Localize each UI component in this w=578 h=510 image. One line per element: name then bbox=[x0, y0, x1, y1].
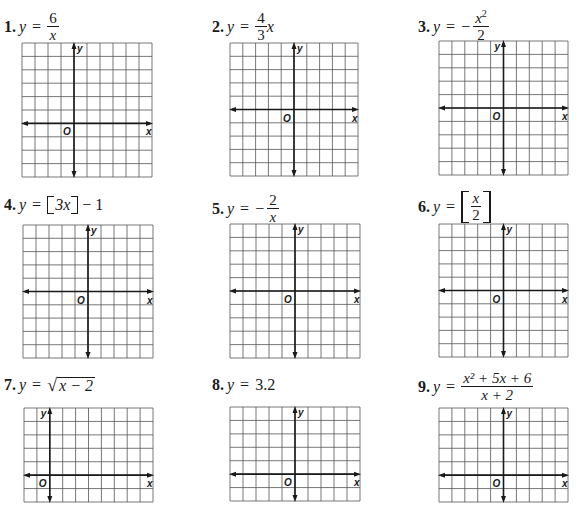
lhs: y bbox=[227, 376, 234, 394]
square-root: √ x − 2 bbox=[47, 376, 95, 394]
lhs: y bbox=[19, 18, 26, 36]
numerator: 4 bbox=[255, 10, 267, 27]
lhs: y bbox=[19, 376, 26, 394]
equals-sign: = bbox=[446, 198, 455, 216]
problem-7-equation: 7. y = √ x − 2 bbox=[4, 376, 95, 394]
radicand: x − 2 bbox=[57, 377, 95, 394]
coordinate-grid-8: xyO bbox=[222, 399, 368, 509]
lhs: y bbox=[227, 200, 234, 218]
y-axis-label: y bbox=[297, 224, 304, 235]
radical-sign-icon: √ bbox=[47, 376, 57, 394]
fraction: x² + 5x + 6 x + 2 bbox=[461, 370, 533, 403]
lhs: y bbox=[433, 198, 440, 216]
problem-number: 9. bbox=[418, 378, 430, 396]
numerator: 2 bbox=[267, 192, 279, 209]
coordinate-grid-5: xyO bbox=[222, 216, 368, 366]
tail: − 1 bbox=[82, 196, 103, 214]
x-axis-label: x bbox=[353, 477, 360, 488]
equals-sign: = bbox=[446, 378, 455, 396]
numerator: 6 bbox=[47, 10, 59, 27]
coordinate-grid-6: xyO bbox=[431, 216, 576, 365]
problem-number: 6. bbox=[418, 198, 430, 216]
origin-label: O bbox=[39, 478, 47, 489]
numerator-base: x bbox=[475, 10, 482, 26]
y-axis-label: y bbox=[76, 43, 83, 54]
y-axis-label: y bbox=[40, 408, 47, 419]
equals-sign: = bbox=[32, 196, 41, 214]
problem-number: 4. bbox=[4, 196, 16, 214]
equals-sign: = bbox=[240, 200, 249, 218]
y-axis-label: y bbox=[506, 224, 513, 235]
problem-8-equation: 8. y = 3.2 bbox=[212, 376, 275, 394]
equals-sign: = bbox=[240, 376, 249, 394]
origin-label: O bbox=[77, 295, 85, 306]
numerator: x2 bbox=[473, 10, 489, 27]
numerator: x² + 5x + 6 bbox=[461, 370, 533, 387]
y-axis-label: y bbox=[90, 225, 97, 236]
coordinate-grid-2: xyO bbox=[222, 35, 366, 184]
y-axis-label: y bbox=[296, 43, 303, 54]
coordinate-grid-7: xyO bbox=[16, 400, 161, 510]
y-axis-label: y bbox=[506, 408, 513, 419]
greatest-integer-open-bracket bbox=[47, 196, 54, 214]
equals-sign: = bbox=[32, 18, 41, 36]
x-axis-label: x bbox=[146, 295, 153, 306]
x-axis-label: x bbox=[561, 111, 568, 122]
x-axis-label: x bbox=[353, 294, 360, 305]
x-axis-label: x bbox=[561, 294, 568, 305]
exponent: 2 bbox=[482, 8, 487, 19]
problem-number: 1. bbox=[4, 18, 16, 36]
origin-label: O bbox=[284, 294, 292, 305]
y-axis-label: y bbox=[297, 407, 304, 418]
lhs: y bbox=[19, 196, 26, 214]
equals-sign: = bbox=[32, 376, 41, 394]
problem-number: 7. bbox=[4, 376, 16, 394]
problem-number: 5. bbox=[212, 200, 224, 218]
origin-label: O bbox=[283, 113, 291, 124]
greatest-integer-close-bracket bbox=[71, 196, 78, 214]
x-axis-label: x bbox=[145, 126, 152, 137]
coordinate-grid-1: xyO bbox=[14, 35, 160, 185]
suffix: x bbox=[267, 18, 274, 36]
origin-label: O bbox=[493, 294, 501, 305]
problem-4-equation: 4. y = 3x − 1 bbox=[4, 196, 103, 214]
lhs: y bbox=[433, 378, 440, 396]
x-axis-label: x bbox=[146, 478, 153, 489]
origin-label: O bbox=[493, 478, 501, 489]
bracket-inner: 3x bbox=[55, 196, 70, 214]
problem-9-equation: 9. y = x² + 5x + 6 x + 2 bbox=[418, 370, 533, 403]
lhs: y bbox=[227, 18, 234, 36]
x-axis-label: x bbox=[561, 478, 568, 489]
problem-number: 3. bbox=[418, 18, 430, 36]
origin-label: O bbox=[493, 111, 501, 122]
problem-number: 8. bbox=[212, 376, 224, 394]
y-axis-label: y bbox=[494, 41, 501, 52]
equals-sign: = bbox=[240, 18, 249, 36]
origin-label: O bbox=[63, 126, 71, 137]
minus-sign: − bbox=[255, 200, 264, 218]
problem-number: 2. bbox=[212, 18, 224, 36]
x-axis-label: x bbox=[351, 113, 358, 124]
coordinate-grid-4: xyO bbox=[15, 217, 161, 366]
rhs: 3.2 bbox=[255, 376, 275, 394]
origin-label: O bbox=[284, 477, 292, 488]
coordinate-grid-3: xyO bbox=[431, 33, 576, 183]
coordinate-grid-9: xyO bbox=[431, 400, 576, 510]
numerator: x bbox=[471, 190, 482, 207]
